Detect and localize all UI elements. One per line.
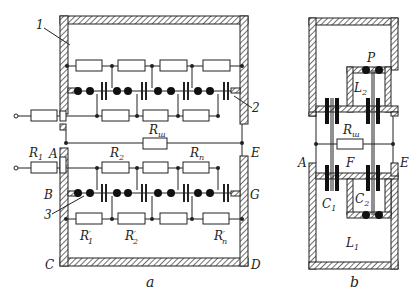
figure-b: P L2 Rш A F E C1 C2 L1 b [297, 18, 409, 290]
resistor-label-shunt-b: Rш [342, 123, 360, 139]
node-a: A [48, 147, 58, 161]
inductor-label-l2: L2 [353, 81, 367, 97]
node-d: D [250, 258, 261, 272]
capacitor-label-c1: C1 [322, 197, 336, 213]
figure-a: Rш [14, 16, 261, 290]
callout-3: 3 [44, 208, 52, 222]
resistor-row-bottom [64, 213, 244, 224]
inductor-label-l1: L1 [345, 236, 359, 252]
capacitor-label-c2: C2 [355, 192, 369, 208]
node-p: P [366, 51, 376, 65]
resistor-label-rn: Rn [189, 146, 204, 162]
caption-b: b [350, 274, 359, 290]
node-g: G [250, 188, 260, 202]
callout-2: 2 [251, 101, 260, 115]
node-f: F [345, 156, 355, 170]
resistor-label-r2: R2 [109, 146, 124, 162]
shunt-resistor-row: Rш [64, 123, 244, 156]
resistor-label-r1: R1 [28, 146, 43, 162]
resistor-row-top [65, 60, 244, 88]
callout-1: 1 [36, 18, 44, 32]
node-a-b: A [297, 156, 307, 170]
input-line-bottom [14, 157, 220, 190]
node-e: E [250, 146, 260, 160]
circuit-diagram: Rш [0, 0, 414, 299]
resistor-label-r1-prime: R′1 [79, 229, 93, 246]
node-c: C [45, 258, 54, 272]
node-e-b: E [399, 156, 409, 170]
resistor-label-r2-prime: R′2 [124, 229, 138, 246]
caption-a: a [146, 274, 154, 290]
input-line-top [14, 110, 220, 121]
resistor-label-shunt: Rш [148, 123, 166, 139]
resistor-label-rn-prime: R′n [213, 229, 227, 246]
node-b: B [43, 188, 53, 202]
